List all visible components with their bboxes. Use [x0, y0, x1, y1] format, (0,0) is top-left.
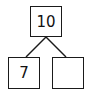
part-left-value: 7 [19, 64, 29, 82]
part-box-left: 7 [8, 57, 40, 89]
part-box-right-empty[interactable] [52, 57, 84, 89]
connector-left [26, 37, 46, 57]
whole-value: 10 [36, 13, 55, 31]
connector-right [46, 37, 66, 57]
whole-box: 10 [30, 6, 62, 37]
